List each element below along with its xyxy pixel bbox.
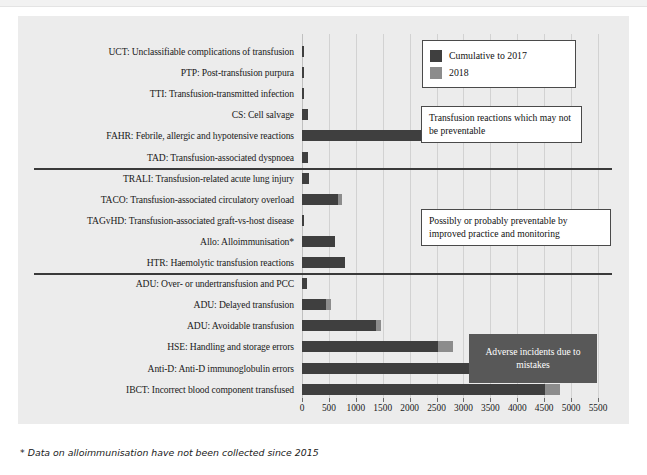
page-top-band: [0, 0, 647, 7]
axis-tick-5000: [571, 398, 572, 402]
bar-row: [302, 215, 303, 226]
bar-segment-2018: [338, 194, 342, 205]
axis-tick-label: 500: [322, 403, 336, 413]
bar-segment-cumulative: [302, 320, 376, 331]
bar-segment-cumulative: [302, 299, 326, 310]
bar-segment-cumulative: [302, 173, 309, 184]
x-axis: 0500100015002000250030003500400045005000…: [302, 398, 632, 418]
category-label: TAGvHD: Transfusion-associated graft-vs-…: [18, 216, 294, 226]
axis-tick-3000: [463, 398, 464, 402]
bar-row: [302, 194, 342, 205]
legend-item: Cumulative to 2017: [430, 47, 568, 64]
category-label: ADU: Avoidable transfusion: [18, 321, 294, 331]
bar-segment-cumulative: [302, 152, 308, 163]
bar-row: [302, 173, 309, 184]
bar-segment-cumulative: [302, 194, 338, 205]
bar-segment-cumulative: [302, 67, 304, 78]
axis-tick-1000: [356, 398, 357, 402]
bar-row: [302, 341, 453, 352]
category-label: HTR: Haemolytic transfusion reactions: [18, 258, 294, 268]
bar-segment-2018: [545, 384, 560, 395]
bar-segment-cumulative: [302, 88, 304, 99]
category-label: Anti-D: Anti-D immunoglobulin errors: [18, 364, 294, 374]
category-labels-column: UCT: Unclassifiable complications of tra…: [18, 16, 294, 396]
bar-segment-cumulative: [302, 257, 345, 268]
bar-row: [302, 278, 307, 289]
legend-item: 2018: [430, 64, 568, 81]
axis-tick-label: 4500: [535, 403, 554, 413]
category-label: UCT: Unclassifiable complications of tra…: [18, 47, 294, 57]
bar-segment-cumulative: [302, 278, 307, 289]
category-label: CS: Cell salvage: [18, 110, 294, 120]
category-label: Allo: Alloimmunisation*: [18, 237, 294, 247]
axis-tick-label: 1500: [373, 403, 392, 413]
bar-row: [302, 257, 345, 268]
bar-segment-cumulative: [302, 236, 335, 247]
axis-tick-3500: [490, 398, 491, 402]
bar-segment-cumulative: [302, 215, 304, 226]
figure-footnote: * Data on alloimmunisation have not been…: [20, 447, 319, 458]
axis-tick-label: 4000: [508, 403, 527, 413]
category-label: TACO: Transfusion-associated circulatory…: [18, 195, 294, 205]
axis-tick-2000: [410, 398, 411, 402]
bar-row: [302, 299, 331, 310]
bar-row: [302, 320, 381, 331]
axis-tick-label: 3000: [454, 403, 473, 413]
axis-tick-5500: [598, 398, 599, 402]
bar-segment-2018: [326, 299, 331, 310]
bar-segment-2018: [376, 320, 381, 331]
category-label: ADU: Over- or undertransfusion and PCC: [18, 279, 294, 289]
bar-segment-2018: [438, 341, 453, 352]
axis-tick-label: 3500: [481, 403, 500, 413]
axis-tick-label: 0: [300, 403, 305, 413]
legend-swatch-cumulative: [430, 50, 442, 62]
category-label: ADU: Delayed transfusion: [18, 300, 294, 310]
axis-tick-label: 5000: [562, 403, 581, 413]
bar-row: [302, 109, 308, 120]
bar-row: [302, 88, 304, 99]
axis-tick-1500: [383, 398, 384, 402]
bar-segment-cumulative: [302, 384, 545, 395]
group-separator: [34, 168, 612, 170]
bar-row: [302, 363, 497, 374]
annotation-preventable: Possibly or probably preventable by impr…: [421, 209, 611, 246]
bar-row: [302, 67, 303, 78]
axis-tick-4000: [517, 398, 518, 402]
bar-segment-cumulative: [302, 341, 438, 352]
bar-row: [302, 152, 308, 163]
axis-tick-label: 2500: [427, 403, 446, 413]
axis-tick-label: 2000: [400, 403, 419, 413]
annotation-transfusion-reactions: Transfusion reactions which may not be p…: [421, 106, 582, 143]
category-label: TAD: Transfusion-associated dyspnoea: [18, 153, 294, 163]
bar-segment-cumulative: [302, 363, 477, 374]
legend-label-cumulative: Cumulative to 2017: [449, 50, 527, 61]
axis-tick-2500: [437, 398, 438, 402]
axis-tick-0: [302, 398, 303, 402]
axis-tick-4500: [544, 398, 545, 402]
bar-row: [302, 46, 304, 57]
bar-row: [302, 236, 335, 247]
category-label: FAHR: Febrile, allergic and hypotensive …: [18, 131, 294, 141]
axis-tick-500: [329, 398, 330, 402]
legend-swatch-2018: [430, 67, 442, 79]
group-separator: [34, 273, 612, 275]
bar-row: [302, 384, 560, 395]
bar-segment-cumulative: [302, 109, 308, 120]
category-label: TRALI: Transfusion-related acute lung in…: [18, 174, 294, 184]
category-label: PTP: Post-transfusion purpura: [18, 68, 294, 78]
axis-tick-label: 5500: [589, 403, 608, 413]
category-label: IBCT: Incorrect blood component transfus…: [18, 385, 294, 395]
axis-tick-label: 1000: [346, 403, 365, 413]
category-label: TTI: Transfusion-transmitted infection: [18, 89, 294, 99]
category-label: HSE: Handling and storage errors: [18, 342, 294, 352]
annotation-adverse-incidents: Adverse incidents due to mistakes: [469, 334, 597, 383]
bar-segment-cumulative: [302, 46, 304, 57]
chart-legend: Cumulative to 2017 2018: [422, 40, 576, 88]
figure-panel: UCT: Unclassifiable complications of tra…: [18, 16, 629, 424]
legend-label-2018: 2018: [449, 67, 469, 78]
